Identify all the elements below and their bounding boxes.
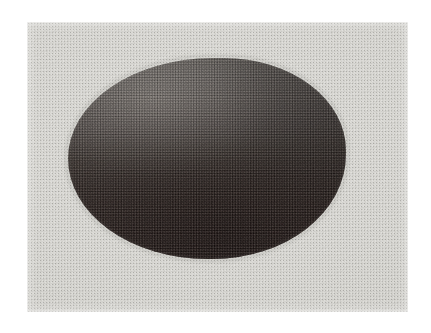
dark-rounded-object: [68, 58, 346, 259]
object-form-shadow: [68, 58, 346, 259]
photograph-plate: [27, 22, 408, 312]
page-canvas: [0, 0, 431, 333]
